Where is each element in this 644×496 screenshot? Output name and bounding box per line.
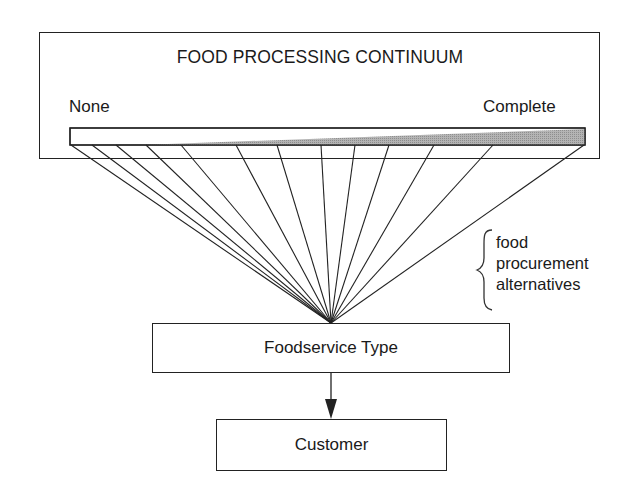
- customer-box: Customer: [216, 419, 447, 471]
- continuum-bar: [70, 128, 585, 145]
- fan-line: [331, 145, 434, 323]
- fan-line: [92, 145, 331, 323]
- fan-line: [331, 145, 355, 323]
- fan-line: [236, 145, 331, 323]
- arrow-to-customer: [325, 373, 337, 419]
- customer-label: Customer: [217, 435, 446, 455]
- fan-line: [146, 145, 331, 323]
- brace-icon: [477, 230, 492, 310]
- fan-line: [181, 145, 331, 323]
- fan-line: [331, 145, 389, 323]
- fan-line: [116, 145, 331, 323]
- fan-line: [331, 145, 493, 323]
- foodservice-type-box: Foodservice Type: [152, 323, 510, 373]
- food-procurement-alternatives-label: food procurement alternatives: [496, 232, 589, 295]
- fan-line: [71, 145, 331, 323]
- foodservice-type-label: Foodservice Type: [153, 338, 509, 358]
